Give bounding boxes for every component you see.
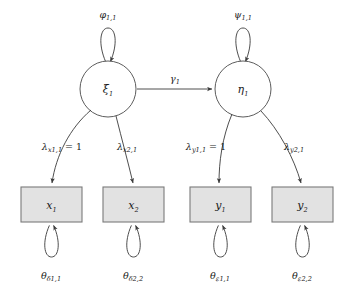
loading-label-lambda-x2-1-subscript: x2,1 (123, 146, 137, 154)
loading-label-lambda-x1-1-subscript: x1,1 (48, 146, 62, 154)
loading-label-lambda-x2-1-symbol: λ (116, 141, 123, 152)
structural-label-gamma1-subscript: 1 (176, 78, 180, 86)
residual-loop-x2 (127, 225, 140, 257)
loading-label-lambda-y1-1-subscript: y1,1 (191, 146, 206, 154)
loading-label-lambda-y2-1-symbol: λ (283, 141, 290, 152)
loading-label-lambda-x2-1: λx2,1 (116, 141, 137, 154)
variance-loop-eta1 (236, 28, 250, 62)
residual-label-theta-delta-2-2-subscript: δ2,2 (129, 275, 143, 283)
path-diagram-canvas: ξ1 η1 x1 x2 y1 y2 φ1,1 ψ1,1 γ1 λx1,1 = 1… (0, 0, 348, 284)
residual-label-theta-epsilon-1-1-subscript: ε1,1 (216, 275, 230, 283)
variance-label-psi11-subscript: 1,1 (241, 14, 252, 22)
loading-label-lambda-x1-1-symbol: λ (41, 141, 48, 152)
loading-label-lambda-y1-1: λy1,1 = 1 (185, 141, 226, 154)
observed-label-x2-subscript: 2 (134, 206, 139, 214)
observed-label-x1-subscript: 1 (53, 206, 57, 214)
variance-loop-xi1 (101, 28, 115, 62)
variance-label-psi11: ψ1,1 (234, 9, 252, 22)
loading-label-lambda-y1-1-symbol: λ (185, 141, 192, 152)
loading-label-lambda-y1-1-suffix: = 1 (206, 141, 226, 152)
residual-loop-y1 (214, 225, 227, 257)
loading-label-lambda-y2-1-subscript: y2,1 (289, 146, 304, 154)
variance-label-phi11: φ1,1 (99, 9, 116, 22)
residual-loop-x1 (45, 225, 58, 257)
observed-label-y1-subscript: 1 (222, 206, 226, 214)
residual-label-theta-epsilon-2-2-subscript: ε2,2 (298, 275, 312, 283)
observed-label-y2-subscript: 2 (303, 206, 308, 214)
residual-label-theta-delta-2-2: θδ2,2 (123, 270, 143, 283)
residual-label-theta-epsilon-2-2: θε2,2 (292, 270, 312, 283)
residual-label-theta-epsilon-1-1: θε1,1 (210, 270, 230, 283)
loading-label-lambda-y2-1: λy2,1 (283, 141, 304, 154)
residual-label-theta-delta-1-1: θδ1,1 (41, 270, 61, 283)
sem-path-diagram: ξ1 η1 x1 x2 y1 y2 φ1,1 ψ1,1 γ1 λx1,1 = 1… (0, 0, 348, 284)
loading-label-lambda-x1-1: λx1,1 = 1 (41, 141, 82, 154)
loading-label-lambda-x1-1-suffix: = 1 (62, 141, 82, 152)
latent-label-eta1-subscript: 1 (244, 90, 248, 98)
latent-label-xi1-subscript: 1 (109, 90, 113, 98)
structural-label-gamma1: γ1 (170, 73, 180, 86)
variance-label-phi11-subscript: 1,1 (106, 14, 117, 22)
residual-loop-y2 (296, 225, 309, 257)
residual-label-theta-delta-1-1-subscript: δ1,1 (47, 275, 61, 283)
